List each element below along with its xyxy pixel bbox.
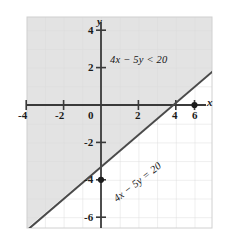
x-tick-label-neg2: -2 xyxy=(55,110,64,121)
point-y-intercept xyxy=(98,177,104,183)
origin-label: 0 xyxy=(88,110,94,121)
y-axis-label: y xyxy=(97,16,102,27)
x-axis-label: x xyxy=(207,97,213,108)
inequality-label: 4x − 5y < 20 xyxy=(110,55,167,66)
x-tick-label-4: 4 xyxy=(172,110,178,121)
y-tick-label-4: 4 xyxy=(88,25,94,36)
y-tick-label-neg2: -2 xyxy=(84,137,93,148)
y-tick-label-neg4: -4 xyxy=(84,174,93,185)
point-x-intercept xyxy=(191,102,197,108)
x-tick-label-6: 6 xyxy=(192,110,198,121)
y-tick-label-2: 2 xyxy=(88,62,94,73)
y-tick-label-neg6: -6 xyxy=(84,212,93,223)
x-tick-label-2: 2 xyxy=(135,110,141,121)
x-tick-label-neg4: -4 xyxy=(18,110,27,121)
graph-figure: -4 -2 0 2 4 6 4 2 -2 -4 -6 x y 4x − 5y <… xyxy=(0,0,230,241)
